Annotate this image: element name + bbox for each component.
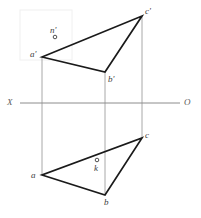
point-label-n-prime: n': [50, 26, 56, 35]
vertex-label-c: c: [145, 131, 149, 140]
point-marker-k: [95, 158, 99, 162]
frontal-projection-triangle: [42, 16, 142, 72]
vertex-label-b-prime: b': [108, 75, 114, 84]
horizontal-projection-triangle: [42, 138, 142, 195]
axis-label-x: X: [7, 98, 13, 107]
point-label-k: k: [94, 164, 98, 173]
watermark-rect: [20, 10, 72, 60]
vertex-label-b: b: [104, 198, 109, 207]
point-marker-n-prime: [53, 35, 57, 39]
vertex-label-a: a: [31, 171, 36, 180]
diagram-canvas: X O a' b' c' a b c n' k: [0, 0, 201, 218]
axis-label-o: O: [184, 98, 191, 107]
projection-drawing: [0, 0, 201, 218]
vertex-label-a-prime: a': [30, 50, 36, 59]
vertex-label-c-prime: c': [145, 7, 151, 16]
